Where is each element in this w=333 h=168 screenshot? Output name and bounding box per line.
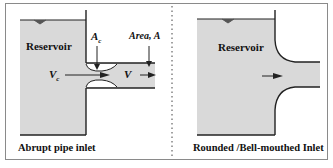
ac-label: Ac xyxy=(91,30,101,45)
left-reservoir-label: Reservoir xyxy=(26,40,72,52)
vc-label: Vc xyxy=(49,68,59,83)
area-a-label: Area, A xyxy=(129,30,160,41)
v-label: V xyxy=(124,68,131,80)
right-reservoir-fluid xyxy=(197,19,320,135)
bell-mouth-top-wall xyxy=(275,10,320,62)
bell-mouth-bottom-wall xyxy=(275,87,320,135)
right-caption: Rounded /Bell-mouthed Inlet xyxy=(193,142,324,153)
right-reservoir-label: Reservoir xyxy=(218,41,264,53)
left-caption: Abrupt pipe inlet xyxy=(18,142,96,153)
